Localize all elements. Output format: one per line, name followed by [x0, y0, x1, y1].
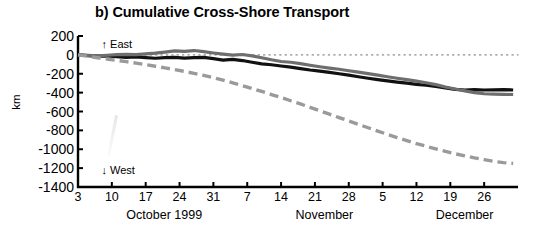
x-tick-label: 3	[63, 190, 93, 204]
chart-figure: b) Cumulative Cross-Shore Transport km 2…	[0, 0, 533, 237]
x-tick-label: 10	[97, 190, 127, 204]
x-tick-label: 19	[435, 190, 465, 204]
y-tick-label: 200	[18, 29, 74, 43]
x-tick-label: 14	[266, 190, 296, 204]
x-tick-label: 12	[401, 190, 431, 204]
x-tick-label: 24	[165, 190, 195, 204]
annotation-east: ↑ East	[102, 38, 133, 50]
chart-title: b) Cumulative Cross-Shore Transport	[95, 4, 349, 20]
x-tick-label: 26	[469, 190, 499, 204]
series-line-gray-dashed	[78, 55, 513, 164]
x-tick-label: 21	[300, 190, 330, 204]
annotation-west: ↓ West	[102, 164, 135, 176]
x-tick-label: 28	[334, 190, 364, 204]
y-tick-label: -400	[18, 86, 74, 100]
y-tick-label: -1000	[18, 142, 74, 156]
series-line-black-solid	[78, 55, 513, 90]
x-tick-label: 31	[198, 190, 228, 204]
month-label: December	[436, 208, 494, 222]
y-tick-label: -600	[18, 105, 74, 119]
x-tick-label: 17	[131, 190, 161, 204]
y-tick-label: -1200	[18, 161, 74, 175]
x-tick-label: 5	[368, 190, 398, 204]
y-tick-label: 0	[18, 48, 74, 62]
month-label: October 1999	[126, 208, 202, 222]
month-label: November	[296, 208, 354, 222]
y-tick-label: -200	[18, 67, 74, 81]
x-tick-label: 7	[232, 190, 262, 204]
y-tick-label: -800	[18, 123, 74, 137]
